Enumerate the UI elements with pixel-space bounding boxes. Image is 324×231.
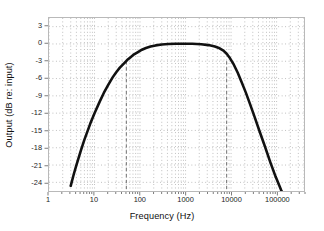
x-tick-label: 1000: [177, 196, 193, 204]
x-tick-label: 100: [134, 196, 146, 204]
x-axis-title: Frequency (Hz): [0, 211, 324, 221]
x-tick-label: 1: [46, 196, 50, 204]
chart-figure: 30-3-6-9-12-15-18-21-24 Output (dB re: i…: [0, 0, 324, 231]
x-tick-label: 10000: [221, 196, 242, 204]
x-tick-label: 100000: [265, 196, 290, 204]
x-axis-tick-labels: 110100100010000100000: [0, 0, 324, 231]
x-tick-label: 10: [90, 196, 98, 204]
